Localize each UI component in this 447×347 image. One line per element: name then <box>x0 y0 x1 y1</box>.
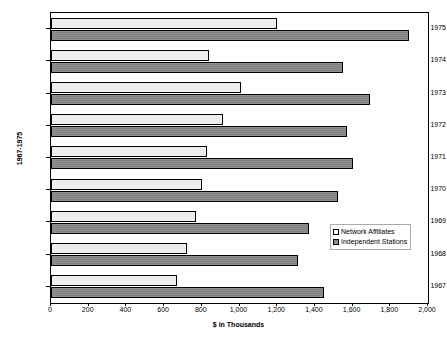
bar-group-1972 <box>51 110 428 142</box>
legend-label-independent-stations: Independent Stations <box>341 237 407 247</box>
bar-independent-stations-1969 <box>51 223 309 234</box>
x-tick-label-1600: 1,600 <box>332 306 372 314</box>
x-tick-mark-1400 <box>314 303 315 306</box>
x-tick-label-2000: 2,000 <box>407 306 447 314</box>
bar-group-1975 <box>51 13 428 45</box>
x-axis-title: $ in Thousands <box>50 321 427 328</box>
bar-independent-stations-1973 <box>51 94 370 105</box>
x-tick-mark-600 <box>163 303 164 306</box>
bar-independent-stations-1974 <box>51 62 343 73</box>
x-tick-label-0: 0 <box>30 306 70 314</box>
bar-network-affiliates-1969 <box>51 211 196 222</box>
bar-independent-stations-1971 <box>51 158 353 169</box>
bar-network-affiliates-1973 <box>51 82 241 93</box>
x-tick-label-1400: 1,400 <box>294 306 334 314</box>
bar-group-1974 <box>51 45 428 77</box>
y-axis-title: 1967-1975 <box>16 109 23 189</box>
x-tick-mark-400 <box>125 303 126 306</box>
bar-group-1971 <box>51 142 428 174</box>
x-tick-label-200: 200 <box>68 306 108 314</box>
y-tick-label-1967: 1967 <box>402 282 446 290</box>
bar-group-1967 <box>51 271 428 303</box>
bar-independent-stations-1972 <box>51 126 347 137</box>
y-tick-mark-1967 <box>46 286 50 287</box>
legend-swatch-icon-independents <box>333 239 339 245</box>
bar-independent-stations-1967 <box>51 287 324 298</box>
y-tick-label-1974: 1974 <box>402 56 446 64</box>
bar-network-affiliates-1972 <box>51 114 223 125</box>
x-tick-mark-1200 <box>276 303 277 306</box>
bar-network-affiliates-1968 <box>51 243 187 254</box>
x-tick-mark-1000 <box>239 303 240 306</box>
x-tick-label-600: 600 <box>143 306 183 314</box>
bar-independent-stations-1970 <box>51 191 338 202</box>
bar-network-affiliates-1967 <box>51 275 177 286</box>
bar-network-affiliates-1975 <box>51 18 277 29</box>
bar-independent-stations-1975 <box>51 30 409 41</box>
legend-swatch-icon-affiliates <box>333 229 339 235</box>
legend-label-network-affiliates: Network Affiliates <box>341 227 395 237</box>
y-tick-mark-1970 <box>46 189 50 190</box>
bar-group-1970 <box>51 174 428 206</box>
y-tick-label-1970: 1970 <box>402 185 446 193</box>
y-tick-label-1971: 1971 <box>402 153 446 161</box>
x-tick-label-1800: 1,800 <box>369 306 409 314</box>
y-tick-mark-1974 <box>46 60 50 61</box>
y-tick-label-1968: 1968 <box>402 250 446 258</box>
bar-network-affiliates-1970 <box>51 179 202 190</box>
bar-group-1973 <box>51 77 428 109</box>
bar-independent-stations-1968 <box>51 255 298 266</box>
y-tick-mark-1971 <box>46 157 50 158</box>
y-tick-mark-1973 <box>46 93 50 94</box>
bar-network-affiliates-1971 <box>51 146 207 157</box>
chart-legend: Network Affiliates Independent Stations <box>330 224 411 250</box>
x-tick-mark-2000 <box>427 303 428 306</box>
plot-area <box>50 12 429 304</box>
x-tick-label-400: 400 <box>105 306 145 314</box>
x-tick-mark-1600 <box>352 303 353 306</box>
x-tick-label-800: 800 <box>181 306 221 314</box>
y-tick-label-1973: 1973 <box>402 89 446 97</box>
x-tick-mark-0 <box>50 303 51 306</box>
x-tick-mark-800 <box>201 303 202 306</box>
bar-network-affiliates-1974 <box>51 50 209 61</box>
x-tick-mark-200 <box>88 303 89 306</box>
x-tick-mark-1800 <box>389 303 390 306</box>
y-tick-mark-1969 <box>46 221 50 222</box>
legend-item-independent-stations: Independent Stations <box>333 237 407 247</box>
y-tick-mark-1968 <box>46 254 50 255</box>
legend-item-network-affiliates: Network Affiliates <box>333 227 407 237</box>
y-tick-mark-1972 <box>46 125 50 126</box>
x-tick-label-1000: 1,000 <box>219 306 259 314</box>
x-tick-label-1200: 1,200 <box>256 306 296 314</box>
y-tick-label-1975: 1975 <box>402 24 446 32</box>
y-tick-label-1972: 1972 <box>402 121 446 129</box>
y-tick-mark-1975 <box>46 28 50 29</box>
